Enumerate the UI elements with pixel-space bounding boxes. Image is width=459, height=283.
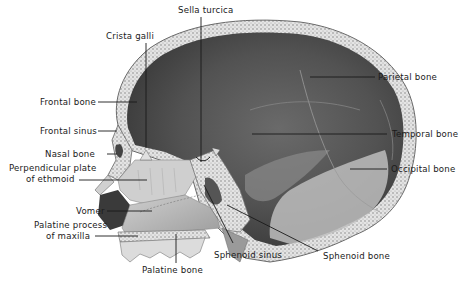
label-vomer: Vomer xyxy=(76,206,105,216)
label-frontal-sinus: Frontal sinus xyxy=(40,126,97,136)
label-occipital-bone: Occipital bone xyxy=(391,164,455,174)
label-temporal-bone: Temporal bone xyxy=(392,129,458,139)
label-frontal-bone: Frontal bone xyxy=(40,97,96,107)
label-palatine-bone: Palatine bone xyxy=(142,265,203,275)
label-palatine-process-line2: of maxilla xyxy=(46,231,90,241)
label-perpendicular-plate-line1: Perpendicular plate xyxy=(9,163,96,173)
label-palatine-process-line1: Palatine process xyxy=(34,220,107,230)
label-crista-galli: Crista galli xyxy=(106,31,154,41)
label-sphenoid-bone: Sphenoid bone xyxy=(323,251,390,261)
label-nasal-bone: Nasal bone xyxy=(45,149,95,159)
label-sphenoid-sinus: Sphenoid sinus xyxy=(214,250,282,260)
label-sella-turcica: Sella turcica xyxy=(178,5,233,15)
label-perpendicular-plate-line2: of ethmoid xyxy=(26,174,75,184)
label-parietal-bone: Parietal bone xyxy=(378,72,437,82)
